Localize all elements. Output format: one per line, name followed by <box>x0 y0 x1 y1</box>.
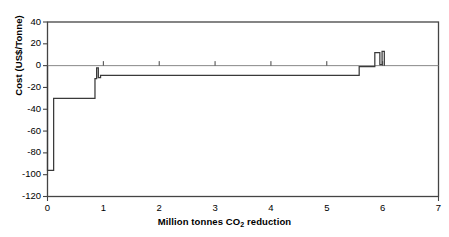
y-tick-label-0: 40 <box>11 16 41 27</box>
step-curve <box>48 51 385 170</box>
y-tick-label-6: -80 <box>11 146 41 157</box>
x-tick-label-5: 5 <box>317 202 337 213</box>
y-tick-label-7: -100 <box>11 168 41 179</box>
x-tick-label-6: 6 <box>373 202 393 213</box>
y-tick-label-8: -120 <box>11 190 41 201</box>
y-tick-label-5: -60 <box>11 125 41 136</box>
y-tick-label-4: -40 <box>11 103 41 114</box>
y-tick-label-2: 0 <box>11 59 41 70</box>
x-tick-label-4: 4 <box>261 202 281 213</box>
abatement-cost-chart: Cost (US$/Tonne) Million tonnes CO2 redu… <box>0 0 449 237</box>
x-tick-label-0: 0 <box>38 202 58 213</box>
y-tick-label-1: 20 <box>11 37 41 48</box>
x-tick-label-3: 3 <box>205 202 225 213</box>
y-tick-label-3: -20 <box>11 81 41 92</box>
plot-frame <box>48 22 439 197</box>
x-tick-label-2: 2 <box>149 202 169 213</box>
x-tick-label-7: 7 <box>429 202 449 213</box>
x-tick-label-1: 1 <box>93 202 113 213</box>
